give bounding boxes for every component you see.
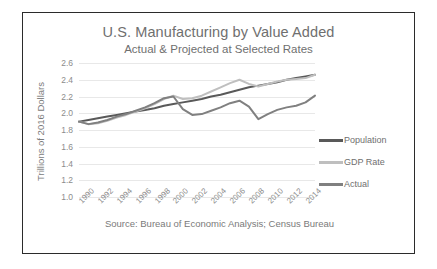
y-tick-label: 1.4 bbox=[61, 159, 73, 169]
legend-item[interactable]: GDP Rate bbox=[319, 151, 411, 173]
plot-area bbox=[79, 63, 315, 197]
plot-lines bbox=[79, 63, 315, 197]
y-tick-label: 2.2 bbox=[61, 92, 73, 102]
y-axis-title: Trillions of 2016 Dollars bbox=[33, 69, 47, 193]
y-tick-label: 1.0 bbox=[61, 192, 73, 202]
legend-label: GDP Rate bbox=[344, 157, 385, 167]
y-tick-label: 1.8 bbox=[61, 125, 73, 135]
legend-label: Actual bbox=[344, 179, 369, 189]
plot-wrap: Trillions of 2016 Dollars 2.62.42.22.01.… bbox=[23, 13, 416, 255]
y-tick-label: 1.2 bbox=[61, 175, 73, 185]
chart-card: U.S. Manufacturing by Value Added Actual… bbox=[22, 12, 415, 254]
legend-item[interactable]: Actual bbox=[319, 173, 411, 195]
y-tick-label: 1.6 bbox=[61, 142, 73, 152]
y-axis-title-label: Trillions of 2016 Dollars bbox=[35, 82, 46, 181]
legend-label: Population bbox=[344, 135, 387, 145]
legend-swatch-icon bbox=[319, 139, 343, 142]
y-tick-label: 2.6 bbox=[61, 58, 73, 68]
legend-swatch-icon bbox=[319, 161, 343, 164]
y-tick-label: 2.4 bbox=[61, 75, 73, 85]
y-axis-tick-labels: 2.62.42.22.01.81.61.41.21.0 bbox=[47, 63, 73, 197]
y-tick-label: 2.0 bbox=[61, 108, 73, 118]
source-note: Source: Bureau of Economic Analysis; Cen… bbox=[23, 218, 416, 229]
chart-legend: PopulationGDP RateActual bbox=[319, 129, 411, 195]
legend-swatch-icon bbox=[319, 183, 343, 186]
legend-item[interactable]: Population bbox=[319, 129, 411, 151]
